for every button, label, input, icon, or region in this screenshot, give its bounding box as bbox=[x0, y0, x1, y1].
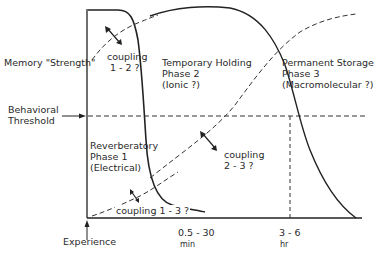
coupling13-arrow-icon bbox=[130, 189, 139, 203]
coupling23-label-1: coupling bbox=[224, 149, 264, 160]
threshold-label-2: Threshold bbox=[8, 115, 55, 126]
phase1-label-2: Phase 1 bbox=[90, 151, 127, 162]
phase3-label-3: (Macromolecular ?) bbox=[282, 79, 373, 90]
threshold-label-1: Behavioral bbox=[8, 104, 59, 115]
phase2-label-1: Temporary Holding bbox=[162, 57, 252, 68]
coupling13-label: coupling 1 - 3 ? bbox=[115, 205, 190, 216]
coupling12-label-1: coupling bbox=[107, 51, 147, 62]
phase2-label-3: (Ionic ?) bbox=[162, 79, 200, 90]
tick-label-min-unit: min bbox=[180, 240, 195, 249]
phase2-label-2: Phase 2 bbox=[162, 68, 199, 79]
tick-label-hr-unit: hr bbox=[280, 240, 288, 249]
coupling12-arrow-icon bbox=[105, 26, 122, 45]
phase1-label-3: (Electrical) bbox=[90, 162, 141, 173]
tick-label-min-value: 0.5 - 30 bbox=[178, 227, 215, 238]
tick-label-hr-value: 3 - 6 bbox=[279, 227, 301, 238]
threshold-arrow-icon bbox=[79, 114, 86, 119]
experience-label: Experience bbox=[63, 236, 116, 247]
coupling12-label-2: 1 - 2 ? bbox=[110, 62, 140, 73]
experience-arrow-icon bbox=[85, 220, 90, 227]
phase2-curve bbox=[150, 7, 356, 218]
phase3-label-2: Phase 3 bbox=[282, 68, 319, 79]
phase1-label-1: Reverberatory bbox=[90, 140, 158, 151]
phase1-curve bbox=[88, 10, 205, 212]
phase3-label-1: Permanent Storage bbox=[282, 57, 374, 68]
coupling23-arrow-icon bbox=[200, 131, 217, 151]
coupling23-label-2: 2 - 3 ? bbox=[224, 160, 254, 171]
y-axis-label: Memory "Strength" bbox=[4, 57, 96, 68]
